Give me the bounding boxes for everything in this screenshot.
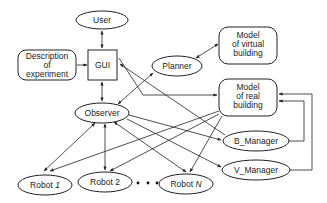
edge-model-real-robotN xyxy=(190,116,222,172)
node-planner: Planner xyxy=(152,56,202,76)
node-model-virtual-line3: building xyxy=(233,48,263,58)
node-robot-2: Robot 2 xyxy=(78,172,132,192)
node-gui: GUI xyxy=(88,50,117,80)
node-gui-label: GUI xyxy=(95,60,110,70)
edge-planner-observer xyxy=(118,73,153,104)
edge-vmanager-model-real xyxy=(279,94,312,170)
node-v-manager: V_Manager xyxy=(222,160,290,180)
node-observer: Observer xyxy=(75,103,129,123)
edge-model-real-robot2 xyxy=(110,114,219,171)
node-model-virtual: Model of virtual building xyxy=(219,27,277,64)
node-user: User xyxy=(76,11,128,29)
node-user-label: User xyxy=(93,15,111,25)
edge-observer-robotN xyxy=(114,122,186,172)
node-robot-n: Robot N xyxy=(159,174,213,194)
node-model-real-line3: building xyxy=(233,100,263,110)
node-b-manager-label: B_Manager xyxy=(234,136,278,146)
node-robot-1-label: Robot 1 xyxy=(30,180,60,190)
node-model-real: Model of real building xyxy=(219,79,277,116)
edge-planner-model-virtual xyxy=(196,44,218,58)
node-v-manager-label: V_Manager xyxy=(234,165,278,175)
node-description: Description of experiment xyxy=(18,50,76,80)
ellipsis-dots xyxy=(137,182,159,185)
system-architecture-diagram: User Description of experiment GUI Plann… xyxy=(0,0,327,203)
node-description-line3: experiment xyxy=(26,69,69,79)
node-observer-label: Observer xyxy=(85,108,120,118)
node-b-manager: B_Manager xyxy=(223,131,289,151)
node-robot-n-label: Robot N xyxy=(170,179,202,189)
node-robot-2-label: Robot 2 xyxy=(90,177,120,187)
node-planner-label: Planner xyxy=(162,61,191,71)
node-robot-1: Robot 1 xyxy=(18,175,72,195)
